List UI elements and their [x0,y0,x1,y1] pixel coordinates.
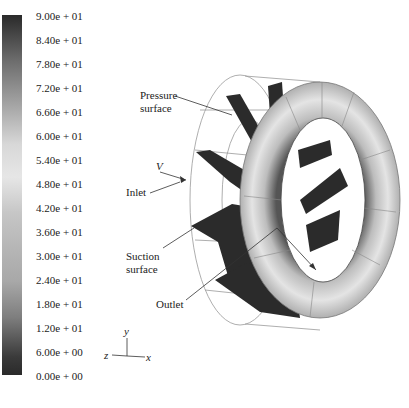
outlet-ring [240,82,400,318]
velocity-label: V [156,160,163,172]
suction-label-line2: surface [126,263,158,275]
axis-z-label: z [104,349,108,361]
outlet-label: Outlet [156,298,184,310]
axis-x-label: x [146,351,151,363]
axes-triad [112,338,145,357]
impeller-figure [0,0,409,408]
inlet-label: Inlet [126,186,146,198]
pressure-label-line1: Pressure [140,89,177,101]
axis-y-label: y [124,325,129,337]
pressure-label-line2: surface [140,102,172,114]
suction-label-line1: Suction [126,250,160,262]
